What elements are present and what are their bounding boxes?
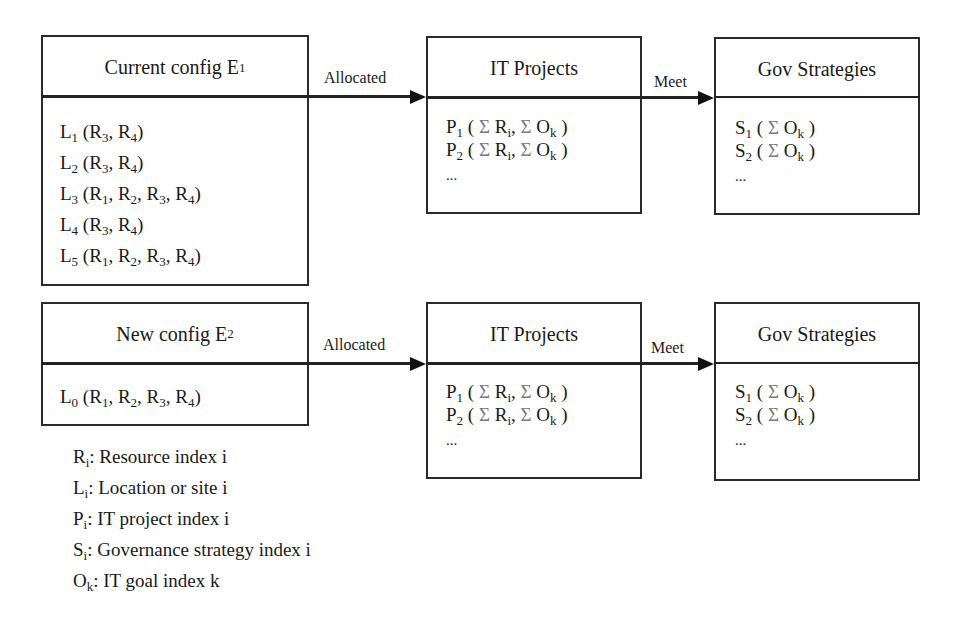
meet-arrow-row2	[426, 362, 701, 365]
gov-divider-row2	[714, 362, 920, 364]
strategy-item: S2 ( Σ Ok )	[735, 403, 918, 426]
subscript: 5	[72, 254, 79, 269]
sum-icon: Σ	[521, 139, 532, 160]
subscript: k	[797, 413, 804, 428]
subscript: i	[84, 517, 88, 532]
ellipsis: ...	[446, 426, 640, 454]
it-projects-box-row2: IT Projects P1 ( Σ Ri, Σ Ok )P2 ( Σ Ri, …	[426, 302, 642, 479]
new-config-locations: L0 (R1, R2, R3, R4)	[43, 364, 307, 424]
subscript: i	[86, 455, 90, 470]
subscript: 4	[131, 161, 138, 176]
gov-strategies-box-row1: Gov Strategies S1 ( Σ Ok )S2 ( Σ Ok )...	[714, 37, 920, 215]
project-item: P1 ( Σ Ri, Σ Ok )	[446, 115, 640, 138]
allocated-label-row2: Allocated	[323, 336, 385, 354]
subscript: 2	[457, 413, 464, 428]
current-config-title: Current config E1	[43, 37, 307, 98]
project-item: P2 ( Σ Ri, Σ Ok )	[446, 403, 640, 426]
it-projects-title: IT Projects	[428, 38, 640, 98]
arrowhead-icon	[698, 357, 714, 371]
gov-strategies-title: Gov Strategies	[716, 39, 918, 99]
subscript: 3	[72, 192, 79, 207]
subscript: i	[507, 413, 511, 428]
gov-strategies-list: S1 ( Σ Ok )S2 ( Σ Ok )...	[716, 99, 918, 213]
subscript: k	[87, 579, 94, 594]
subscript: 3	[159, 254, 166, 269]
subscript: i	[84, 548, 88, 563]
subscript: 3	[102, 161, 109, 176]
ellipsis: ...	[446, 161, 640, 189]
subscript: 2	[457, 148, 464, 163]
new-config-title: New config E2	[43, 304, 307, 364]
subscript: 4	[131, 223, 138, 238]
legend: Ri: Resource index iLi: Location or site…	[73, 441, 311, 596]
project-item: P2 ( Σ Ri, Σ Ok )	[446, 138, 640, 161]
strategy-item: S1 ( Σ Ok )	[735, 380, 918, 403]
sum-icon: Σ	[479, 404, 490, 425]
current-config-box: Current config E1 L1 (R3, R4)L2 (R3, R4)…	[41, 35, 309, 286]
subscript: 3	[102, 223, 109, 238]
it-projects-box-row1: IT Projects P1 ( Σ Ri, Σ Ok )P2 ( Σ Ri, …	[426, 36, 642, 214]
subscript: i	[85, 486, 89, 501]
subscript: 1	[102, 192, 109, 207]
location-item: L5 (R1, R2, R3, R4)	[60, 240, 307, 271]
gov-strategies-box-row2: Gov Strategies S1 ( Σ Ok )S2 ( Σ Ok )...	[714, 302, 920, 481]
subscript: 1	[102, 254, 109, 269]
legend-item: Ok: IT goal index k	[73, 565, 311, 596]
meet-arrow-row1	[426, 96, 701, 99]
ellipsis: ...	[735, 426, 918, 454]
sum-icon: Σ	[768, 140, 779, 161]
subscript: k	[797, 149, 804, 164]
location-item: L4 (R3, R4)	[60, 209, 307, 240]
subscript: 4	[188, 192, 195, 207]
allocated-arrow-row1	[41, 95, 411, 98]
it-projects-list: P1 ( Σ Ri, Σ Ok )P2 ( Σ Ri, Σ Ok )...	[428, 98, 640, 212]
sum-icon: Σ	[521, 404, 532, 425]
subscript: 2	[131, 192, 138, 207]
sum-icon: Σ	[479, 116, 490, 137]
location-item: L1 (R3, R4)	[60, 116, 307, 147]
subscript: 1	[72, 130, 79, 145]
strategy-item: S2 ( Σ Ok )	[735, 139, 918, 162]
subscript: k	[550, 148, 557, 163]
ellipsis: ...	[735, 162, 918, 190]
subscript: 4	[131, 130, 138, 145]
subscript: k	[550, 413, 557, 428]
config-title-text: Current config E	[105, 56, 239, 79]
legend-item: Si: Governance strategy index i	[73, 534, 311, 565]
gov-strategies-list: S1 ( Σ Ok )S2 ( Σ Ok )...	[716, 364, 918, 479]
location-item: L3 (R1, R2, R3, R4)	[60, 178, 307, 209]
subscript: i	[507, 148, 511, 163]
subscript: 3	[102, 130, 109, 145]
sum-icon: Σ	[768, 404, 779, 425]
subscript: 0	[72, 395, 79, 410]
gov-divider-row1	[714, 96, 920, 98]
sum-icon: Σ	[521, 116, 532, 137]
legend-item: Pi: IT project index i	[73, 503, 311, 534]
sum-icon: Σ	[768, 117, 779, 138]
strategy-item: S1 ( Σ Ok )	[735, 116, 918, 139]
project-item: P1 ( Σ Ri, Σ Ok )	[446, 380, 640, 403]
subscript: 2	[746, 413, 753, 428]
subscript: 3	[159, 395, 166, 410]
current-config-locations: L1 (R3, R4)L2 (R3, R4)L3 (R1, R2, R3, R4…	[43, 98, 307, 284]
subscript: 4	[188, 395, 195, 410]
legend-item: Ri: Resource index i	[73, 441, 311, 472]
subscript: 1	[102, 395, 109, 410]
arrowhead-icon	[410, 357, 426, 371]
subscript: 4	[188, 254, 195, 269]
arrowhead-icon	[698, 91, 714, 105]
sum-icon: Σ	[479, 381, 490, 402]
sum-icon: Σ	[479, 139, 490, 160]
allocated-arrow-row2	[41, 362, 411, 365]
sum-icon: Σ	[521, 381, 532, 402]
subscript: 2	[131, 254, 138, 269]
it-projects-title: IT Projects	[428, 304, 640, 364]
subscript: 2	[72, 161, 79, 176]
allocated-label-row1: Allocated	[324, 69, 386, 87]
meet-label-row1: Meet	[654, 73, 687, 91]
subscript: 4	[72, 223, 79, 238]
subscript: 3	[159, 192, 166, 207]
config-title-text: New config E	[116, 323, 227, 346]
it-projects-list: P1 ( Σ Ri, Σ Ok )P2 ( Σ Ri, Σ Ok )...	[428, 364, 640, 477]
sum-icon: Σ	[768, 381, 779, 402]
